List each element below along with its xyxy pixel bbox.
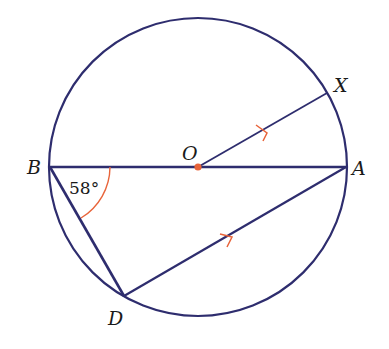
label-x: X: [332, 74, 349, 96]
label-b: B: [26, 156, 41, 178]
label-o: O: [182, 142, 198, 164]
geometry-diagram: B A O X D 58°: [0, 0, 389, 349]
chord-da: [124, 167, 346, 296]
parallel-arrow-icon: [220, 234, 232, 247]
center-point-o: [194, 163, 201, 170]
label-d: D: [107, 307, 123, 329]
angle-label: 58°: [69, 178, 99, 198]
label-a: A: [350, 157, 366, 179]
